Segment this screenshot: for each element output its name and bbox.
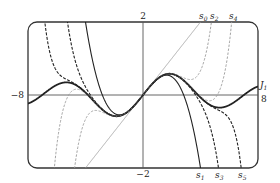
j1-label: J1: [258, 80, 267, 91]
bessel-chart: 2 −2 −8 8 J1 s0 s2 s4 s1 s3 s5: [0, 0, 280, 183]
x-left-tick-label: −8: [11, 90, 25, 100]
s0-label: s0: [199, 11, 208, 22]
s5-label: s5: [238, 170, 247, 181]
x-right-tick-label: 8: [261, 94, 267, 104]
y-top-tick-label: 2: [140, 11, 146, 21]
s1-label: s1: [196, 170, 204, 181]
s4-label: s4: [229, 11, 238, 22]
s2-label: s2: [210, 11, 219, 22]
s3-label: s3: [215, 170, 224, 181]
y-bottom-tick-label: −2: [136, 169, 149, 179]
